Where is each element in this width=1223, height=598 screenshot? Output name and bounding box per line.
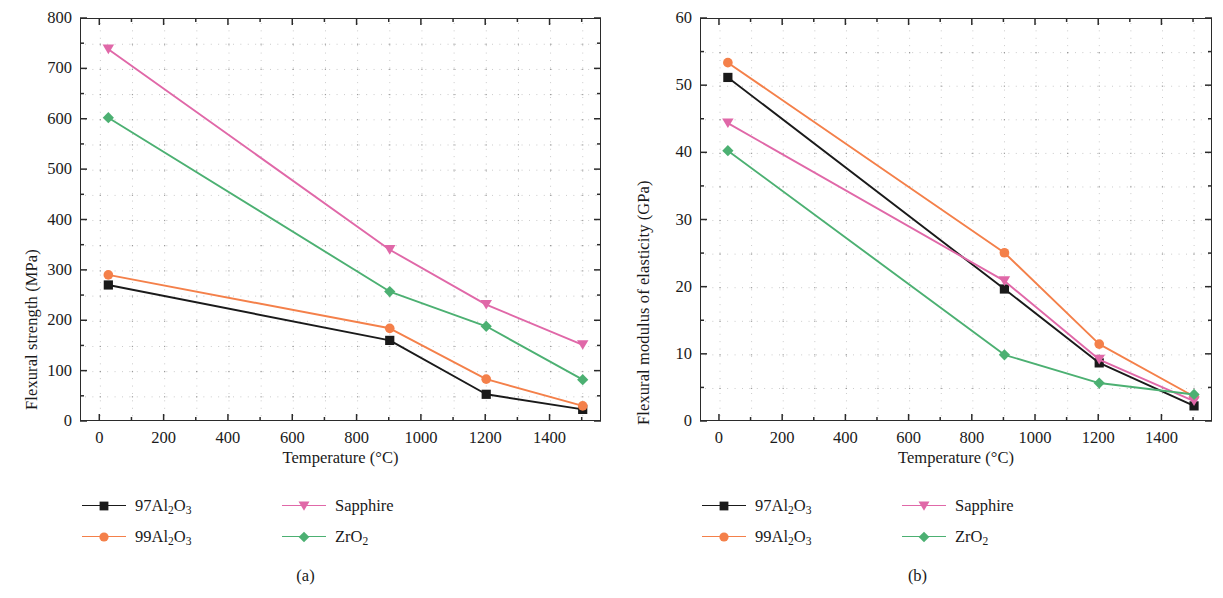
legend-marker-triangle-down-icon bbox=[297, 499, 311, 513]
legend-marker-square-icon bbox=[717, 499, 731, 513]
y-tick-label: 60 bbox=[642, 8, 692, 28]
y-tick-label: 20 bbox=[642, 277, 692, 297]
legend-marker-diamond-icon bbox=[917, 530, 931, 544]
y-tick-label: 100 bbox=[22, 361, 72, 381]
legend-key-triangle-down-icon bbox=[282, 499, 326, 513]
panel-b: Flexural modulus of elasticity (GPa) 010… bbox=[612, 0, 1223, 598]
panel-a-caption: (a) bbox=[0, 566, 611, 586]
legend-key-circle-icon bbox=[82, 530, 126, 544]
y-tick-label: 0 bbox=[642, 411, 692, 431]
figure-container: Flexural strength (MPa) 0100200300400500… bbox=[0, 0, 1223, 598]
legend-label: 99Al2O3 bbox=[135, 527, 191, 547]
legend-marker-triangle-down-icon bbox=[917, 499, 931, 513]
legend-label: Sapphire bbox=[955, 496, 1014, 516]
y-tick-label: 200 bbox=[22, 310, 72, 330]
panel-a-tick-layer bbox=[0, 0, 611, 470]
legend-item-sapphire[interactable]: Sapphire bbox=[282, 496, 482, 516]
legend-marker-square-icon bbox=[97, 499, 111, 513]
panel-a: Flexural strength (MPa) 0100200300400500… bbox=[0, 0, 611, 598]
legend-key-diamond-icon bbox=[902, 530, 946, 544]
legend-label: ZrO2 bbox=[955, 527, 988, 547]
x-tick-label: 400 bbox=[198, 428, 258, 448]
panel-b-tick-layer bbox=[612, 0, 1223, 470]
x-tick-label: 1400 bbox=[520, 428, 580, 448]
y-tick-label: 400 bbox=[22, 210, 72, 230]
y-tick-label: 800 bbox=[22, 8, 72, 28]
legend-item-sapphire[interactable]: Sapphire bbox=[902, 496, 1102, 516]
legend-marker-circle-icon bbox=[97, 530, 111, 544]
x-tick-label: 0 bbox=[689, 428, 749, 448]
legend-key-circle-icon bbox=[702, 530, 746, 544]
x-tick-label: 1000 bbox=[391, 428, 451, 448]
legend-item-99al2o3[interactable]: 99Al2O3 bbox=[702, 527, 902, 547]
legend-item-zro2[interactable]: ZrO2 bbox=[282, 527, 482, 547]
legend-key-triangle-down-icon bbox=[902, 499, 946, 513]
legend-item-97al2o3[interactable]: 97Al2O3 bbox=[82, 496, 282, 516]
legend-item-99al2o3[interactable]: 99Al2O3 bbox=[82, 527, 282, 547]
legend-key-diamond-icon bbox=[282, 530, 326, 544]
legend-item-97al2o3[interactable]: 97Al2O3 bbox=[702, 496, 902, 516]
x-tick-label: 1200 bbox=[455, 428, 515, 448]
x-tick-label: 1400 bbox=[1131, 428, 1191, 448]
y-tick-label: 300 bbox=[22, 260, 72, 280]
y-tick-label: 600 bbox=[22, 109, 72, 129]
x-tick-label: 200 bbox=[752, 428, 812, 448]
x-tick-label: 800 bbox=[942, 428, 1002, 448]
y-tick-label: 700 bbox=[22, 58, 72, 78]
x-tick-label: 400 bbox=[815, 428, 875, 448]
x-tick-label: 1200 bbox=[1068, 428, 1128, 448]
y-tick-label: 40 bbox=[642, 142, 692, 162]
panel-b-caption: (b) bbox=[612, 566, 1223, 586]
y-tick-label: 50 bbox=[642, 75, 692, 95]
legend-label: 97Al2O3 bbox=[135, 496, 191, 516]
panel-a-legend: 97Al2O3Sapphire99Al2O3ZrO2 bbox=[82, 490, 482, 552]
x-tick-label: 600 bbox=[879, 428, 939, 448]
legend-label: 97Al2O3 bbox=[755, 496, 811, 516]
panel-a-x-axis-label: Temperature (°C) bbox=[80, 448, 601, 468]
x-tick-label: 200 bbox=[134, 428, 194, 448]
panel-b-x-axis-label: Temperature (°C) bbox=[700, 448, 1212, 468]
legend-marker-circle-icon bbox=[717, 530, 731, 544]
x-tick-label: 1000 bbox=[1005, 428, 1065, 448]
legend-marker-diamond-icon bbox=[297, 530, 311, 544]
y-tick-label: 500 bbox=[22, 159, 72, 179]
legend-key-square-icon bbox=[82, 499, 126, 513]
legend-label: Sapphire bbox=[335, 496, 394, 516]
legend-label: ZrO2 bbox=[335, 527, 368, 547]
x-tick-label: 600 bbox=[262, 428, 322, 448]
legend-item-zro2[interactable]: ZrO2 bbox=[902, 527, 1102, 547]
legend-label: 99Al2O3 bbox=[755, 527, 811, 547]
panel-b-legend: 97Al2O3Sapphire99Al2O3ZrO2 bbox=[702, 490, 1102, 552]
y-tick-label: 0 bbox=[22, 411, 72, 431]
x-tick-label: 0 bbox=[69, 428, 129, 448]
y-tick-label: 10 bbox=[642, 344, 692, 364]
x-tick-label: 800 bbox=[327, 428, 387, 448]
y-tick-label: 30 bbox=[642, 210, 692, 230]
legend-key-square-icon bbox=[702, 499, 746, 513]
